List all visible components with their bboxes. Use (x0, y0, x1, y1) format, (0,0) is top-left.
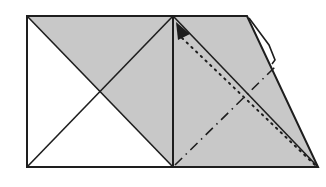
origami-diagram (0, 0, 326, 187)
